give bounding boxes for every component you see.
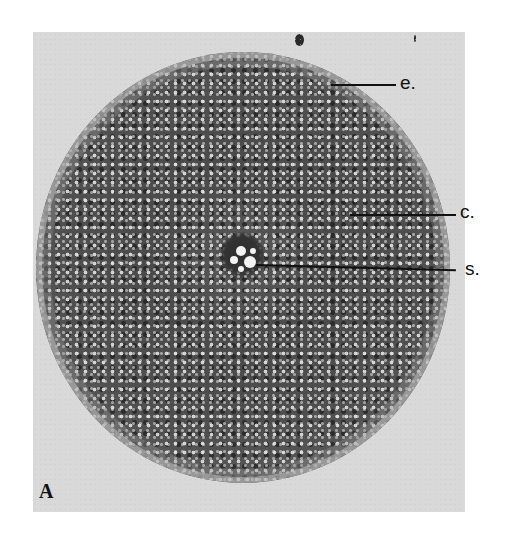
leader-line-c (350, 214, 456, 216)
debris-speck (295, 34, 304, 46)
vessel (238, 266, 244, 272)
panel-label: A (39, 480, 53, 503)
label-e: e. (400, 72, 416, 94)
label-c: c. (460, 201, 475, 223)
vessel (230, 256, 238, 264)
label-s: s. (465, 258, 480, 280)
vessel (236, 246, 246, 256)
vessel (250, 248, 256, 254)
leader-line-e (331, 84, 396, 86)
vessel (244, 256, 256, 268)
debris-speck (414, 35, 416, 42)
